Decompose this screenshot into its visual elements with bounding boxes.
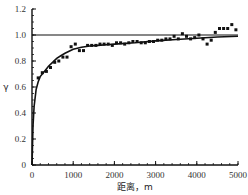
data-point — [57, 60, 60, 63]
y-tick-label: 1.0 — [15, 30, 27, 40]
data-point — [119, 41, 122, 44]
data-point — [41, 71, 44, 74]
data-point — [226, 27, 229, 30]
data-point — [78, 49, 81, 52]
data-point — [66, 56, 69, 59]
data-point — [99, 43, 102, 46]
x-tick-label: 3000 — [147, 170, 166, 180]
data-point — [86, 44, 89, 47]
axes — [32, 9, 238, 165]
x-tick-label: 4000 — [188, 170, 207, 180]
data-point — [144, 41, 147, 44]
data-point — [82, 49, 85, 52]
x-tick-label: 2000 — [105, 170, 124, 180]
data-point — [74, 43, 77, 46]
y-tick-label: 0 — [22, 160, 27, 170]
data-point — [197, 34, 200, 37]
data-point — [156, 39, 159, 42]
data-point — [214, 31, 217, 34]
y-tick-label: 0.8 — [15, 56, 27, 66]
data-point — [123, 43, 126, 46]
data-point — [148, 40, 151, 43]
x-tick-label: 1000 — [64, 170, 83, 180]
data-point — [45, 70, 48, 73]
data-point — [94, 44, 97, 47]
data-point — [185, 35, 188, 38]
data-point — [193, 36, 196, 39]
data-point — [70, 45, 73, 48]
data-point — [173, 35, 176, 38]
data-point — [49, 66, 52, 69]
data-point — [61, 56, 64, 59]
data-point — [234, 28, 237, 31]
y-tick-label: 0.2 — [15, 134, 26, 144]
data-point — [152, 40, 155, 43]
data-point — [111, 44, 114, 47]
data-point — [140, 41, 143, 44]
data-point — [222, 27, 225, 30]
x-axis-label: 距离，m — [117, 181, 153, 192]
x-axis-ticks: 010002000300040005000 — [30, 161, 248, 180]
data-point — [210, 39, 213, 42]
data-point — [230, 23, 233, 26]
data-point — [37, 76, 40, 79]
data-point — [206, 43, 209, 46]
x-tick-label: 5000 — [229, 170, 248, 180]
experimental-points — [37, 23, 238, 79]
y-tick-label: 0.4 — [15, 108, 27, 118]
data-point — [53, 61, 56, 64]
data-point — [136, 40, 139, 43]
data-point — [177, 37, 180, 40]
data-point — [218, 27, 221, 30]
data-point — [189, 37, 192, 40]
data-point — [169, 37, 172, 40]
data-point — [160, 39, 163, 42]
data-point — [131, 40, 134, 43]
data-point — [164, 37, 167, 40]
y-axis-label: γ — [3, 82, 9, 92]
y-tick-label: 1.2 — [15, 4, 26, 14]
data-point — [103, 43, 106, 46]
data-point — [115, 41, 118, 44]
y-tick-label: 0.6 — [15, 82, 27, 92]
data-point — [127, 41, 130, 44]
data-point — [202, 37, 205, 40]
data-point — [107, 43, 110, 46]
variogram-chart: 00.20.40.60.81.01.2 01000200030004000500… — [0, 0, 248, 195]
x-tick-label: 0 — [30, 170, 35, 180]
data-point — [90, 44, 93, 47]
data-point — [181, 32, 184, 35]
